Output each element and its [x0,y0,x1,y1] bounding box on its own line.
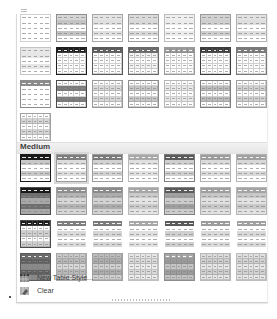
table-style-medium-6[interactable] [200,154,231,182]
table-style-light-14[interactable] [236,47,267,75]
new-table-style-label: New Table Style... [37,274,93,281]
table-style-medium-7[interactable] [236,154,267,182]
stray-dot [9,296,11,298]
light-styles-grid [20,14,267,141]
table-style-medium-13[interactable] [200,187,231,215]
table-style-medium-16[interactable] [56,220,87,248]
table-style-medium-10[interactable] [92,187,123,215]
table-style-medium-8[interactable] [20,187,51,215]
table-style-medium-19[interactable] [164,220,195,248]
table-style-light-6[interactable] [200,14,231,42]
gallery-menu: New Table Style... Clear [17,272,267,296]
section-header-medium: Medium [17,142,267,154]
table-style-light-2[interactable] [56,14,87,42]
medium-styles-grid [20,154,267,281]
table-style-light-4[interactable] [128,14,159,42]
table-style-light-1[interactable] [20,14,51,42]
table-style-medium-9[interactable] [56,187,87,215]
table-style-medium-12[interactable] [164,187,195,215]
table-style-light-21[interactable] [236,80,267,108]
clear-label: Clear [37,287,54,294]
table-style-medium-5[interactable] [164,154,195,182]
table-style-medium-15[interactable] [20,220,51,248]
gallery-scroll-grip[interactable] [19,8,29,11]
table-style-light-5[interactable] [164,14,195,42]
new-table-style-menu-item[interactable]: New Table Style... [17,272,267,283]
table-style-medium-4[interactable] [128,154,159,182]
table-style-medium-21[interactable] [236,220,267,248]
table-style-light-22[interactable] [20,113,51,141]
table-style-light-9[interactable] [56,47,87,75]
table-style-medium-18[interactable] [128,220,159,248]
table-styles-gallery: Medium New Table Style... Clear [16,14,268,303]
table-style-medium-17[interactable] [92,220,123,248]
table-style-light-16[interactable] [56,80,87,108]
section-label-medium: Medium [20,142,50,151]
new-table-style-icon [20,274,29,282]
table-style-light-10[interactable] [92,47,123,75]
table-style-medium-3[interactable] [92,154,123,182]
table-style-light-7[interactable] [236,14,267,42]
table-style-light-19[interactable] [164,80,195,108]
table-style-light-20[interactable] [200,80,231,108]
table-style-light-18[interactable] [128,80,159,108]
clear-menu-item[interactable]: Clear [17,285,267,296]
table-style-light-15[interactable] [20,80,51,108]
table-style-light-12[interactable] [164,47,195,75]
resize-grip[interactable] [112,299,172,301]
table-style-light-11[interactable] [128,47,159,75]
table-style-medium-1[interactable] [20,154,51,182]
table-style-light-17[interactable] [92,80,123,108]
table-style-medium-14[interactable] [236,187,267,215]
table-style-medium-2[interactable] [56,154,87,182]
table-style-medium-11[interactable] [128,187,159,215]
table-style-light-13[interactable] [200,47,231,75]
table-style-light-8[interactable] [20,47,51,75]
table-style-light-3[interactable] [92,14,123,42]
clear-eraser-icon [20,287,29,295]
table-style-medium-20[interactable] [200,220,231,248]
